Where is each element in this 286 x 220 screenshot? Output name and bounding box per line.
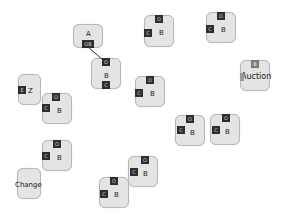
- edges-layer: [0, 0, 286, 220]
- edge-connector[interactable]: [88, 47, 103, 60]
- diagram-canvas[interactable]: AOBBOCBOCBOCZEBOCBOCAuctionBBOCBOCBOCCha…: [0, 0, 286, 220]
